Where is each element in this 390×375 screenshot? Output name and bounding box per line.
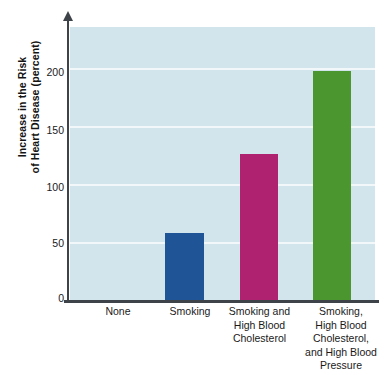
- x-tick-label-smoking-high-blood-cholesterol-and-high-blood-pressure: Smoking, High Blood Cholesterol, and Hig…: [297, 305, 385, 373]
- x-tick-line: and High Blood: [297, 346, 385, 360]
- y-axis-line: [67, 19, 69, 301]
- bar-chart: Increase in the Risk of Heart Disease (p…: [0, 0, 390, 375]
- x-tick-label-none: None: [83, 305, 153, 319]
- x-tick-line: Cholesterol: [222, 332, 297, 346]
- x-tick-line: Smoking: [150, 305, 230, 319]
- y-tick-label-0: 0: [24, 293, 64, 304]
- y-axis-arrow-icon: [63, 11, 73, 21]
- y-tick-label-50: 50: [24, 238, 64, 249]
- x-tick-line: Smoking,: [297, 305, 385, 319]
- x-tick-label-smoking: Smoking: [150, 305, 230, 319]
- x-axis-line: [64, 300, 379, 303]
- x-tick-line: High Blood: [297, 319, 385, 333]
- plot-area: [70, 27, 375, 300]
- x-tick-line: Pressure: [297, 359, 385, 373]
- y-tick-label-200: 200: [24, 67, 64, 78]
- x-tick-line: None: [83, 305, 153, 319]
- gridline-200: [70, 68, 375, 70]
- x-tick-line: High Blood: [222, 319, 297, 333]
- x-tick-label-smoking-and-high-blood-cholesterol: Smoking and High Blood Cholesterol: [222, 305, 297, 346]
- y-tick-label-100: 100: [24, 182, 64, 193]
- bar-smoking-high-blood-cholesterol-and-high-blood-pressure: [313, 71, 351, 300]
- x-tick-line: Smoking and: [222, 305, 297, 319]
- bar-smoking: [165, 233, 204, 300]
- y-tick-label-150: 150: [24, 125, 64, 136]
- x-tick-line: Cholesterol,: [297, 332, 385, 346]
- bar-smoking-and-high-blood-cholesterol: [240, 154, 278, 300]
